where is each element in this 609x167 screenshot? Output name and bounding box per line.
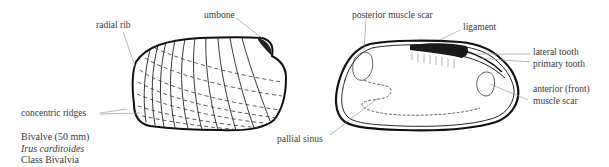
caption-size: Bivalve (50 mm) xyxy=(21,131,89,143)
leader-lines xyxy=(100,18,530,135)
ligament-shading xyxy=(410,43,468,58)
label-radial-rib: radial rib xyxy=(96,20,131,31)
leader-anterior-muscle-scar xyxy=(490,84,528,100)
label-primary-tooth: primary tooth xyxy=(533,59,585,70)
umbone-shading xyxy=(258,38,272,56)
leader-radial-rib xyxy=(123,32,135,66)
leader-concentric-ridges-2 xyxy=(100,113,140,114)
leader-umbone xyxy=(236,18,262,38)
label-lateral-tooth: lateral tooth xyxy=(533,47,579,58)
label-pallial-sinus: pallial sinus xyxy=(277,134,323,145)
label-ligament: ligament xyxy=(463,22,496,33)
specimen-caption: Bivalve (50 mm) Irus carditoides Class B… xyxy=(21,131,89,166)
label-posterior-muscle-scar: posterior muscle scar xyxy=(352,10,433,21)
caption-species: Irus carditoides xyxy=(21,143,89,155)
pallial-line xyxy=(362,80,480,115)
exterior-shell xyxy=(133,37,286,130)
label-umbone: umbone xyxy=(204,10,235,21)
label-concentric-ridges: concentric ridges xyxy=(21,108,86,119)
leader-concentric-ridges-1 xyxy=(100,109,127,113)
caption-class: Class Bivalvia xyxy=(21,154,89,166)
anterior-muscle-scar-shape xyxy=(477,72,495,96)
label-anterior-muscle-scar-line1: anterior (front) xyxy=(533,84,590,95)
posterior-muscle-scar-shape xyxy=(353,52,373,80)
label-anterior-muscle-scar-line2: muscle scar xyxy=(533,96,578,107)
leader-ligament xyxy=(440,30,460,40)
